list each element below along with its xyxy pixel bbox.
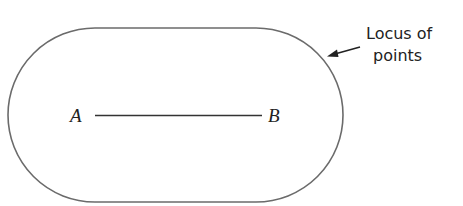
locus-diagram: A B Locus of points [0,0,463,206]
point-b-label: B [268,105,280,126]
annotation-line-2: points [373,46,422,65]
point-a-label: A [68,105,82,126]
arrow-icon [327,47,360,57]
annotation-line-1: Locus of [366,24,433,43]
